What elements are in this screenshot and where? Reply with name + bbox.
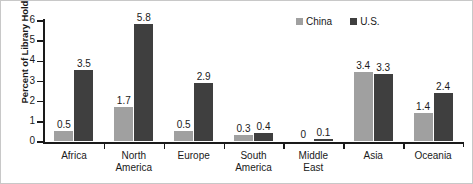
bar-us <box>74 70 93 141</box>
bar-value-label: 0.4 <box>257 121 271 132</box>
bar-value-label: 2.4 <box>436 81 450 92</box>
bar-chart-figure: Percent of Library Holdings 0123456 0.53… <box>0 0 473 184</box>
bar-china <box>234 135 253 141</box>
legend-swatch-icon-us <box>350 18 357 25</box>
bar-value-label: 1.7 <box>117 95 131 106</box>
x-axis-tick <box>164 144 166 149</box>
bar-us <box>374 74 393 141</box>
y-axis-line <box>43 19 45 143</box>
x-axis-category-label: Oceania <box>414 150 451 162</box>
bar-value-label: 0.3 <box>237 123 251 134</box>
bar-value-label: 0.1 <box>316 127 330 138</box>
x-axis-category-label: North America <box>115 150 152 174</box>
bar-value-label: 0.5 <box>177 119 191 130</box>
bar-value-label: 3.4 <box>356 60 370 71</box>
legend-item-china: China <box>296 16 332 27</box>
x-axis-tick <box>104 144 106 149</box>
x-axis-category-label: Asia <box>363 150 382 162</box>
y-axis-tick-label: 5 <box>21 34 35 45</box>
x-axis-tick <box>283 144 285 149</box>
x-axis-tick <box>403 144 405 149</box>
bar-us <box>434 93 453 141</box>
bar-us <box>134 24 153 141</box>
y-axis-tick <box>37 101 43 103</box>
bar-value-label: 0.5 <box>57 119 71 130</box>
legend-item-us: U.S. <box>350 16 379 27</box>
bar-china <box>114 107 133 141</box>
legend-label-china: China <box>306 16 332 27</box>
bar-china <box>54 131 73 141</box>
bar-china <box>414 113 433 141</box>
bar-china <box>354 72 373 141</box>
x-axis-tick <box>224 144 226 149</box>
legend-swatch-icon-china <box>296 18 303 25</box>
y-axis-tick <box>37 141 43 143</box>
y-axis-tick-label: 4 <box>21 54 35 65</box>
bar-us <box>254 133 273 141</box>
legend: China U.S. <box>296 16 380 27</box>
bar-value-label: 3.3 <box>376 62 390 73</box>
y-axis-tick-label: 1 <box>21 115 35 126</box>
bar-value-label: 2.9 <box>197 71 211 82</box>
bar-us <box>314 139 333 141</box>
y-axis-tick-label: 2 <box>21 95 35 106</box>
bar-china <box>174 131 193 141</box>
y-axis-tick <box>37 40 43 42</box>
y-axis-tick <box>37 61 43 63</box>
bar-value-label: 5.8 <box>137 12 151 23</box>
bar-value-label: 1.4 <box>416 101 430 112</box>
x-axis-category-label: South America <box>235 150 272 174</box>
x-axis-category-label: Middle East <box>299 150 328 174</box>
bar-value-label: 3.5 <box>77 58 91 69</box>
y-axis-tick-label: 6 <box>21 14 35 25</box>
bar-value-label: 0 <box>301 129 307 140</box>
y-axis-tick-label: 0 <box>21 135 35 146</box>
y-axis-tick-label: 3 <box>21 75 35 86</box>
y-axis-tick <box>37 20 43 22</box>
x-axis-category-label: Europe <box>178 150 210 162</box>
y-axis-tick <box>37 121 43 123</box>
x-axis-end-tick <box>463 142 465 147</box>
bar-us <box>194 83 213 141</box>
x-axis-category-label: Africa <box>61 150 87 162</box>
legend-label-us: U.S. <box>360 16 379 27</box>
x-axis-tick <box>343 144 345 149</box>
x-axis-line <box>43 142 464 144</box>
y-axis-tick <box>37 81 43 83</box>
